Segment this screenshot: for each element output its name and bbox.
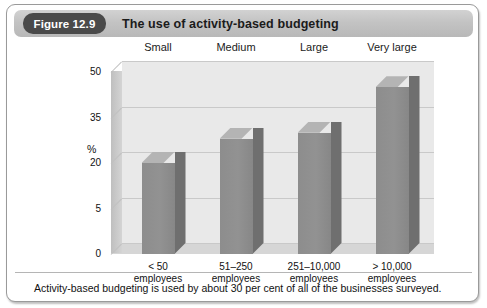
y-axis-tick-label: 5 bbox=[77, 204, 101, 214]
figure-titlebar: Figure 12.9 The use of activity-based bu… bbox=[14, 10, 473, 37]
bar-column bbox=[142, 39, 175, 254]
bar-top-face bbox=[376, 76, 409, 87]
y-axis-tick-labels: 05203550 bbox=[77, 39, 101, 271]
figure-title: The use of activity-based budgeting bbox=[122, 14, 339, 34]
bar-side-face bbox=[175, 152, 186, 254]
figure-caption: Activity-based budgeting is used by abou… bbox=[34, 281, 464, 295]
figure-panel: Figure 12.9 The use of activity-based bu… bbox=[6, 4, 479, 302]
bar-front-face bbox=[376, 87, 409, 254]
figure-number-badge: Figure 12.9 bbox=[23, 13, 106, 34]
chart-plot-area: 05203550 % SmallMediumLargeVery large < … bbox=[15, 39, 472, 271]
bar-top-face bbox=[142, 152, 175, 163]
bar-column bbox=[220, 39, 253, 254]
figure-screenshot: Figure 12.9 The use of activity-based bu… bbox=[0, 0, 487, 308]
bar-side-face bbox=[409, 76, 420, 254]
y-axis-tick-label: 0 bbox=[77, 249, 101, 259]
y-axis-tick-label: 50 bbox=[77, 67, 101, 77]
y-axis-tick-label: 35 bbox=[77, 113, 101, 123]
bar-top-face bbox=[220, 128, 253, 139]
y-axis-unit-label: % bbox=[87, 143, 96, 155]
bar-column bbox=[298, 39, 331, 254]
bar-side-face bbox=[253, 128, 264, 254]
bar-top-face bbox=[298, 122, 331, 133]
bar-side-face bbox=[331, 122, 342, 254]
y-axis-tick-label: 20 bbox=[77, 158, 101, 168]
caption-divider bbox=[15, 272, 472, 273]
bar-front-face bbox=[220, 139, 253, 254]
bar-front-face bbox=[142, 163, 175, 254]
bar-column bbox=[376, 39, 409, 254]
bar-front-face bbox=[298, 133, 331, 254]
